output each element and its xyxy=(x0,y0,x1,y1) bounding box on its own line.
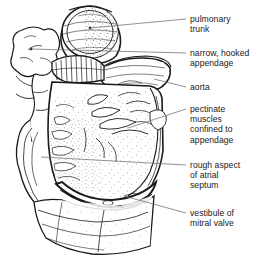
leader-dot-narrow-hooked-appendage xyxy=(30,48,33,51)
label-vestibule-mitral-valve: vestibule of mitral valve xyxy=(190,208,234,228)
leader-dot-pulmonary-trunk xyxy=(89,27,92,30)
label-narrow-hooked-appendage: narrow, hooked appendage xyxy=(190,48,249,68)
label-rough-aspect-atrial-septum: rough aspect of atrial septum xyxy=(190,160,240,191)
label-aorta: aorta xyxy=(190,82,210,92)
anatomical-figure: pulmonary trunknarrow, hooked appendagea… xyxy=(0,0,272,263)
label-pectinate-muscles: pectinate muscles confined to appendage xyxy=(190,104,233,145)
label-pulmonary-trunk: pulmonary trunk xyxy=(190,14,230,34)
cut-myocardial-edge xyxy=(52,56,104,83)
